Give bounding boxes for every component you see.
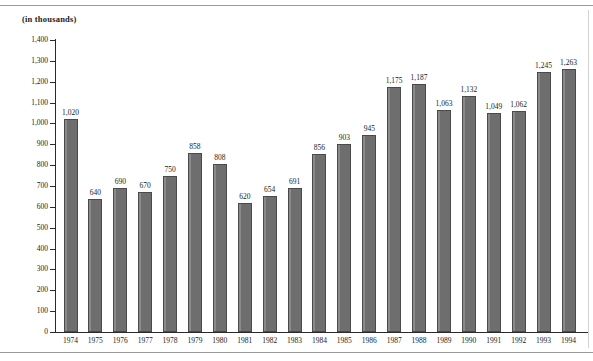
x-axis-tick-label: 1983 xyxy=(283,336,307,345)
y-axis-tick-label: 1,200 xyxy=(2,78,48,86)
bar-value-label: 691 xyxy=(280,177,310,186)
bar xyxy=(562,69,576,332)
y-axis-tick xyxy=(50,82,55,83)
y-axis-tick-label: 0 xyxy=(2,328,48,336)
bar-value-label: 1,187 xyxy=(404,73,434,82)
y-axis-tick-label: 1,300 xyxy=(2,57,48,65)
x-axis-tick-label: 1984 xyxy=(307,336,331,345)
y-axis-tick xyxy=(50,290,55,291)
x-axis-tick-label: 1994 xyxy=(556,336,580,345)
bar-value-label: 1,062 xyxy=(504,100,534,109)
x-axis-tick-label: 1974 xyxy=(58,336,82,345)
bar-value-label: 1,132 xyxy=(454,85,484,94)
y-axis-tick-label: 600 xyxy=(2,203,48,211)
y-axis-tick-label-wrap: 200 xyxy=(0,286,48,294)
x-axis-tick-label: 1985 xyxy=(332,336,356,345)
y-axis-line xyxy=(55,39,56,333)
y-axis-tick-label-wrap: 400 xyxy=(0,245,48,253)
x-axis-tick-label: 1975 xyxy=(83,336,107,345)
bar-value-label: 640 xyxy=(80,188,110,197)
bar-value-label: 750 xyxy=(155,165,185,174)
y-axis-tick xyxy=(50,207,55,208)
y-axis-tick xyxy=(50,61,55,62)
bar-value-label: 1,020 xyxy=(55,108,85,117)
y-axis-tick-label-wrap: 1,200 xyxy=(0,78,48,86)
chart-page: (in thousands) 1,4001,3001,2001,1001,000… xyxy=(0,0,593,361)
x-axis-tick-label: 1982 xyxy=(258,336,282,345)
y-axis-tick-label-wrap: 600 xyxy=(0,203,48,211)
bar xyxy=(263,196,277,332)
y-axis-tick-label-wrap: 100 xyxy=(0,307,48,315)
bar xyxy=(337,144,351,332)
bar xyxy=(487,113,501,332)
bar-value-label: 1,063 xyxy=(429,99,459,108)
bar-value-label: 903 xyxy=(329,133,359,142)
bar xyxy=(163,176,177,332)
y-axis-tick-label-wrap: 300 xyxy=(0,265,48,273)
y-axis-tick xyxy=(50,165,55,166)
y-axis-tick-label: 1,100 xyxy=(2,99,48,107)
bar xyxy=(387,87,401,332)
bar xyxy=(462,96,476,332)
y-axis-tick xyxy=(50,186,55,187)
y-axis-tick-label: 1,400 xyxy=(2,36,48,44)
bar xyxy=(362,135,376,332)
y-axis-tick-label-wrap: 700 xyxy=(0,182,48,190)
y-axis-tick xyxy=(50,144,55,145)
y-axis-tick-label: 700 xyxy=(2,182,48,190)
y-axis-tick xyxy=(50,40,55,41)
y-axis-tick-label-wrap: 1,100 xyxy=(0,99,48,107)
y-axis-tick-label: 900 xyxy=(2,140,48,148)
bar-value-label: 654 xyxy=(255,185,285,194)
x-axis-tick-label: 1979 xyxy=(183,336,207,345)
x-axis-tick-label: 1978 xyxy=(158,336,182,345)
bar xyxy=(288,188,302,332)
y-axis-tick-label-wrap: 1,400 xyxy=(0,36,48,44)
bar-value-label: 945 xyxy=(354,124,384,133)
y-axis-tick-label-wrap: 900 xyxy=(0,140,48,148)
x-axis-line xyxy=(55,332,588,333)
y-axis-tick-label: 800 xyxy=(2,161,48,169)
bar xyxy=(213,164,227,333)
x-axis-tick-label: 1991 xyxy=(482,336,506,345)
x-axis-tick-label: 1988 xyxy=(407,336,431,345)
bar xyxy=(88,199,102,333)
y-axis-tick-label: 200 xyxy=(2,286,48,294)
bar-value-label: 1,263 xyxy=(553,58,583,67)
bar-value-label: 808 xyxy=(205,153,235,162)
y-axis-tick xyxy=(50,123,55,124)
bar xyxy=(437,110,451,332)
y-axis-tick xyxy=(50,332,55,333)
bar-chart-plot: 1,4001,3001,2001,1001,000900800700600500… xyxy=(0,0,593,361)
y-axis-tick xyxy=(50,228,55,229)
bar xyxy=(238,203,252,332)
y-axis-tick xyxy=(50,269,55,270)
bar xyxy=(537,72,551,332)
y-axis-tick xyxy=(50,103,55,104)
bar xyxy=(113,188,127,332)
y-axis-tick-label-wrap: 800 xyxy=(0,161,48,169)
y-axis-tick-label: 1,000 xyxy=(2,119,48,127)
x-axis-tick-label: 1989 xyxy=(432,336,456,345)
bar-value-label: 670 xyxy=(130,181,160,190)
x-axis-tick-label: 1987 xyxy=(382,336,406,345)
bar xyxy=(188,153,202,332)
bar xyxy=(138,192,152,332)
x-axis-tick-label: 1992 xyxy=(507,336,531,345)
x-axis-tick-label: 1993 xyxy=(532,336,556,345)
y-axis-tick-label: 300 xyxy=(2,265,48,273)
y-axis-tick-label-wrap: 500 xyxy=(0,224,48,232)
x-axis-tick-label: 1980 xyxy=(208,336,232,345)
y-axis-tick-label: 500 xyxy=(2,224,48,232)
bar-value-label: 856 xyxy=(304,143,334,152)
bar xyxy=(64,119,78,332)
bar-value-label: 858 xyxy=(180,142,210,151)
x-axis-tick-label: 1981 xyxy=(233,336,257,345)
y-axis-tick-label-wrap: 0 xyxy=(0,328,48,336)
x-axis-tick-label: 1986 xyxy=(357,336,381,345)
y-axis-tick xyxy=(50,249,55,250)
bar xyxy=(512,111,526,333)
bar xyxy=(412,84,426,332)
y-axis-tick xyxy=(50,311,55,312)
x-axis-tick-label: 1977 xyxy=(133,336,157,345)
